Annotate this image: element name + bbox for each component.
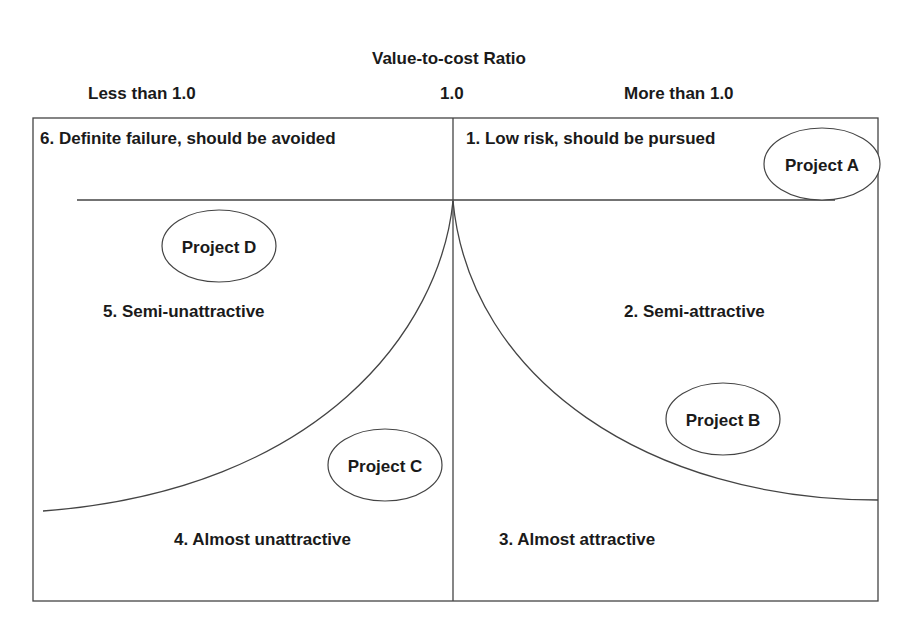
region-4-label: 4. Almost unattractive [174, 531, 351, 548]
region-5-label: 5. Semi-unattractive [103, 303, 265, 320]
outer-frame [33, 118, 878, 601]
region-2-label: 2. Semi-attractive [624, 303, 765, 320]
region-3-label: 3. Almost attractive [499, 531, 655, 548]
right-boundary-curve [453, 201, 878, 500]
project-d-label: Project D [182, 239, 257, 256]
region-1-label: 1. Low risk, should be pursued [466, 130, 715, 147]
region-6-label: 6. Definite failure, should be avoided [40, 130, 336, 147]
project-b-label: Project B [686, 412, 761, 429]
project-a-label: Project A [785, 157, 859, 174]
project-c-label: Project C [348, 458, 423, 475]
